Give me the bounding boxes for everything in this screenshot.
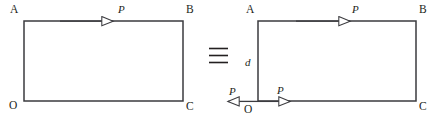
left-vertex-label-A: A <box>10 4 19 16</box>
diagram-canvas <box>0 0 442 122</box>
right-vertex-label-B: B <box>419 4 427 16</box>
right-force-label-P-reaction: P <box>229 86 236 97</box>
right-vertex-label-C: C <box>419 101 427 113</box>
right-force-label-P-top: P <box>352 4 359 15</box>
force-equivalence-diagram: A B O C P A B O C P P P d <box>0 0 442 122</box>
left-rectangle-outline <box>24 21 183 101</box>
left-force-label-P-top: P <box>118 4 125 15</box>
right-vertex-label-A: A <box>246 4 255 16</box>
right-dimension-label-d: d <box>245 57 251 68</box>
right-vertex-label-O: O <box>244 104 253 116</box>
left-vertex-label-B: B <box>186 4 194 16</box>
left-vertex-label-C: C <box>186 101 194 113</box>
identical-to-symbol-strokes <box>209 49 228 63</box>
left-vertex-label-O: O <box>9 100 18 112</box>
right-force-label-P-bottom: P <box>277 85 284 96</box>
